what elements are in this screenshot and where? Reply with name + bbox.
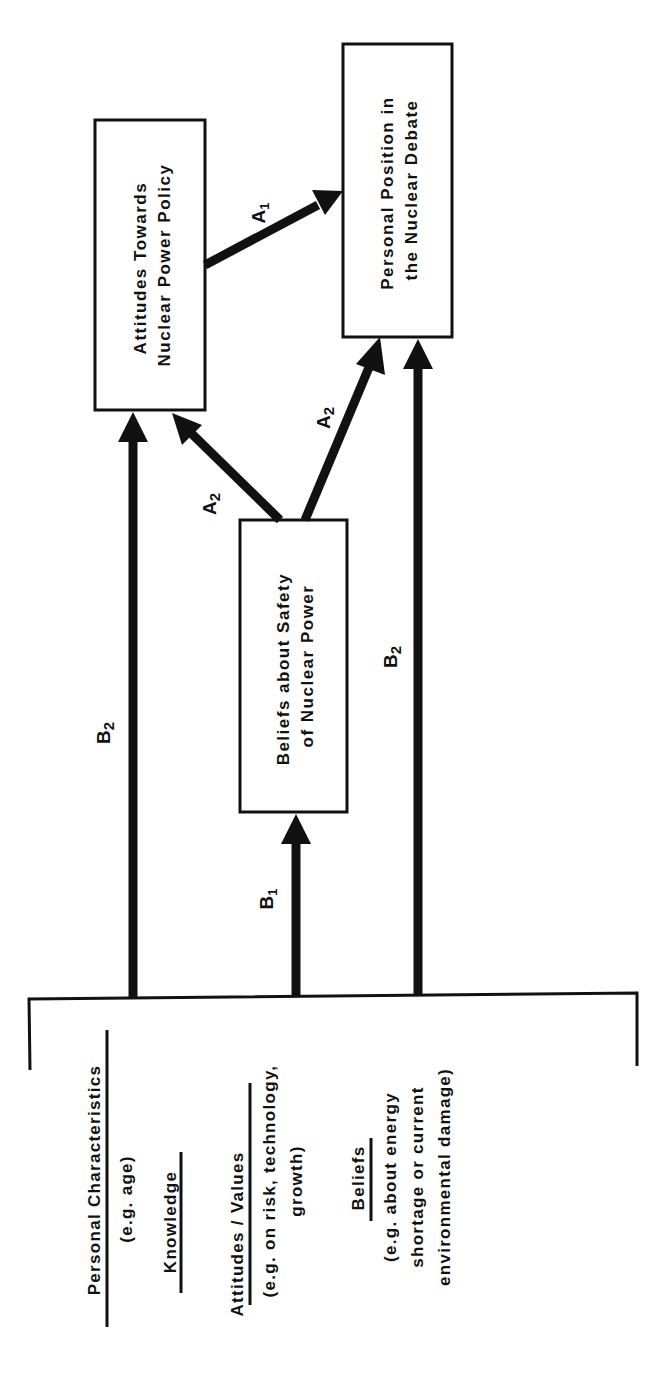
node-personal-position: Personal Position in the Nuclear Debate bbox=[343, 44, 452, 337]
edge-label-a2-right: A2 bbox=[313, 407, 337, 429]
predictor-personal: Personal Characteristics (e.g. age) bbox=[85, 1030, 136, 1327]
predictor-title: Beliefs bbox=[349, 1146, 368, 1211]
node-attitudes-policy: Attitudes Towards Nuclear Power Policy bbox=[95, 120, 205, 410]
predictor-detail-line1: (e.g. about energy bbox=[381, 1092, 400, 1262]
node-label-line1: Attitudes Towards bbox=[131, 182, 150, 355]
arrowhead-icon bbox=[281, 814, 311, 844]
predictor-detail-line2: growth) bbox=[287, 1145, 306, 1216]
predictor-detail-line3: environmental damage) bbox=[435, 1068, 454, 1286]
predictor-knowledge: Knowledge bbox=[161, 1152, 181, 1293]
node-label-line2: Nuclear Power Policy bbox=[155, 164, 174, 367]
predictor-detail-line2: shortage or current bbox=[408, 1086, 427, 1268]
node-box bbox=[343, 44, 452, 337]
node-label-line1: Beliefs about Safety bbox=[274, 573, 293, 766]
edge-label-a1: A1 bbox=[248, 203, 272, 224]
arrow-b1 bbox=[281, 814, 311, 997]
predictor-beliefs: Beliefs (e.g. about energy shortage or c… bbox=[349, 1068, 454, 1286]
arrow-a1 bbox=[205, 190, 343, 265]
arrowhead-icon bbox=[403, 339, 433, 369]
path-diagram: Attitudes Towards Nuclear Power Policy P… bbox=[0, 0, 660, 1374]
edge-label-a2-left: A2 bbox=[199, 493, 223, 515]
predictor-title: Knowledge bbox=[161, 1171, 180, 1273]
predictor-bracket bbox=[29, 993, 637, 1070]
arrowhead-icon bbox=[356, 337, 385, 375]
arrow-b2-right bbox=[403, 339, 433, 995]
node-label-line1: Personal Position in bbox=[378, 96, 397, 289]
node-label-line2: of Nuclear Power bbox=[298, 585, 317, 748]
predictor-detail: (e.g. age) bbox=[117, 1155, 136, 1243]
node-box bbox=[95, 120, 205, 410]
node-box bbox=[240, 520, 347, 812]
node-beliefs-safety: Beliefs about Safety of Nuclear Power bbox=[240, 520, 347, 812]
edge-label-b2-left: B2 bbox=[93, 722, 117, 744]
edge-label-b2-right: B2 bbox=[380, 646, 404, 668]
predictor-title: Personal Characteristics bbox=[85, 1065, 104, 1296]
edge-label-b1: B1 bbox=[256, 889, 280, 910]
arrow-b2-left bbox=[118, 412, 148, 997]
predictor-detail-line1: (e.g. on risk, technology, bbox=[260, 1065, 279, 1298]
arrowhead-icon bbox=[118, 412, 148, 442]
node-label-line2: the Nuclear Debate bbox=[402, 100, 421, 281]
predictor-title: Attitudes / Values bbox=[228, 1151, 247, 1316]
arrow-a2-left bbox=[172, 413, 280, 520]
predictor-attitudes-values: Attitudes / Values (e.g. on risk, techno… bbox=[228, 1065, 306, 1317]
